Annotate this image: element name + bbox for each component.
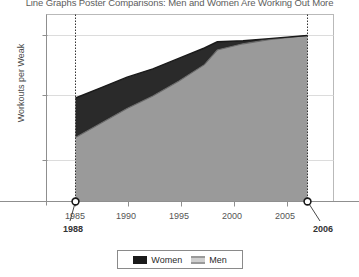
legend-item-women[interactable]: Women <box>133 255 182 265</box>
legend-label-men: Men <box>209 255 227 265</box>
x-axis-ticks <box>76 202 288 207</box>
marker-point-1988 <box>72 198 79 205</box>
plot-area <box>0 0 359 277</box>
chart-legend: Women Men <box>117 250 243 269</box>
chart-figure: Line Graphs Poster Comparisons: Men and … <box>0 0 359 277</box>
legend-swatch-women <box>133 256 147 264</box>
legend-label-women: Women <box>151 255 182 265</box>
legend-item-men[interactable]: Men <box>191 255 227 265</box>
marker-point-2006 <box>304 198 311 205</box>
legend-swatch-men <box>191 256 205 264</box>
